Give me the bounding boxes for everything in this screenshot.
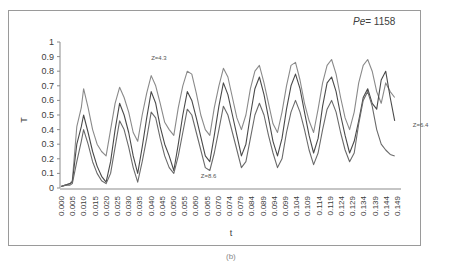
x-tick-label: 0.065 xyxy=(203,195,212,216)
line-chart: 00.10.20.30.40.50.60.70.80.91 0.0000.005… xyxy=(0,0,464,265)
x-tick-label: 0.124 xyxy=(337,195,346,216)
y-axis-label: T xyxy=(19,117,29,123)
x-tick-label: 0.050 xyxy=(169,195,178,216)
x-tick-label: 0.129 xyxy=(348,195,357,216)
y-tick-label: 0.9 xyxy=(41,52,54,62)
y-tick-label: 1 xyxy=(49,37,54,47)
y-tick-label: 0.1 xyxy=(41,168,54,178)
series-line-z-4-3 xyxy=(61,60,395,187)
series-line-z-8-6 xyxy=(61,92,395,187)
x-tick-label: 0.045 xyxy=(158,195,167,216)
x-tick-label: 0.079 xyxy=(236,195,245,216)
x-tick-label: 0.149 xyxy=(393,195,402,216)
y-axis: 00.10.20.30.40.50.60.70.80.91 xyxy=(41,37,60,193)
x-tick-label: 0.000 xyxy=(57,195,66,216)
x-tick-label: 0.015 xyxy=(91,195,100,216)
x-axis: 0.0000.0050.0100.0150.0200.0250.0300.035… xyxy=(57,189,402,216)
series-annotation: Z=6.4 xyxy=(413,122,429,128)
y-tick-label: 0 xyxy=(49,183,54,193)
series-lines xyxy=(61,60,395,187)
x-tick-label: 0.025 xyxy=(113,195,122,216)
x-tick-label: 0.084 xyxy=(247,195,256,216)
series-annotation: Z=4.3 xyxy=(151,55,167,61)
x-tick-label: 0.035 xyxy=(135,195,144,216)
y-tick-label: 0.5 xyxy=(41,110,54,120)
x-tick-label: 0.020 xyxy=(102,195,111,216)
y-tick-label: 0.4 xyxy=(41,125,54,135)
x-tick-label: 0.005 xyxy=(68,195,77,216)
x-tick-label: 0.134 xyxy=(359,195,368,216)
x-tick-label: 0.074 xyxy=(225,195,234,216)
x-tick-label: 0.109 xyxy=(303,195,312,216)
x-tick-label: 0.040 xyxy=(147,195,156,216)
x-tick-label: 0.099 xyxy=(281,195,290,216)
x-tick-label: 0.070 xyxy=(214,195,223,216)
pe-symbol: Pe xyxy=(353,16,366,27)
y-tick-label: 0.7 xyxy=(41,81,54,91)
x-tick-label: 0.139 xyxy=(371,195,380,216)
x-tick-label: 0.060 xyxy=(191,195,200,216)
y-tick-label: 0.3 xyxy=(41,139,54,149)
x-axis-label: t xyxy=(230,228,233,238)
series-annotation: Z=8.6 xyxy=(201,173,217,179)
x-tick-label: 0.030 xyxy=(124,195,133,216)
y-tick-label: 0.2 xyxy=(41,154,54,164)
y-tick-label: 0.8 xyxy=(41,66,54,76)
x-tick-label: 0.089 xyxy=(259,195,268,216)
x-tick-label: 0.010 xyxy=(79,195,88,216)
pe-value: = 1158 xyxy=(365,16,396,27)
x-tick-label: 0.114 xyxy=(315,195,324,215)
x-tick-label: 0.104 xyxy=(292,195,301,216)
figure-caption: (b) xyxy=(226,252,236,261)
x-tick-label: 0.055 xyxy=(180,195,189,216)
x-tick-label: 0.144 xyxy=(382,195,391,216)
x-tick-label: 0.119 xyxy=(326,195,335,215)
x-tick-label: 0.094 xyxy=(270,195,279,216)
y-tick-label: 0.6 xyxy=(41,95,54,105)
peclet-annotation: Pe= 1158 xyxy=(353,16,396,27)
